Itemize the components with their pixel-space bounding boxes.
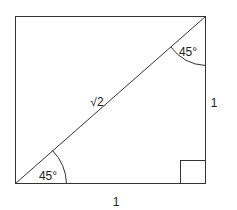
angle-top-label: 45° [179, 45, 197, 59]
hypotenuse-line [16, 17, 206, 184]
right-side-label: 1 [211, 96, 218, 110]
bottom-side-label: 1 [113, 195, 120, 209]
diagram-canvas: 45° 45° √2 1 1 [0, 0, 237, 210]
right-angle-marker [181, 161, 206, 184]
hypotenuse-label: √2 [90, 95, 104, 109]
angle-bottom-label: 45° [39, 169, 57, 183]
